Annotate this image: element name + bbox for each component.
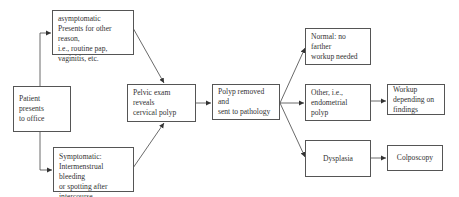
node-workup: Workup depending on findings	[387, 84, 445, 115]
node-label: Colposcopy	[397, 153, 433, 163]
node-dysplasia: Dysplasia	[305, 140, 371, 177]
node-symptomatic: Symptomatic: Intermenstrual bleeding or …	[53, 147, 134, 192]
edge-patient-asymptomatic	[40, 33, 51, 86]
node-label: Polyp removed and sent to pathology	[218, 87, 274, 117]
node-label: Normal: no farther workup needed	[311, 32, 365, 62]
node-label: Other, i.e., endometrial polyp	[311, 88, 365, 118]
edge-asymptomatic-pelvic	[133, 28, 164, 83]
node-patient-presents: Patient presents to office	[13, 86, 71, 132]
edge-patient-symptomatic	[40, 132, 52, 170]
edge-symptomatic-pelvic	[133, 123, 164, 168]
node-normal: Normal: no farther workup needed	[305, 28, 371, 65]
node-asymptomatic: asymptomatic Presents for other reason, …	[52, 10, 134, 55]
node-label: Pelvic exam reveals cervical polyp	[133, 88, 190, 118]
node-label: asymptomatic Presents for other reason, …	[58, 14, 128, 64]
node-label: Workup depending on findings	[393, 85, 434, 115]
node-pelvic-exam: Pelvic exam reveals cervical polyp	[127, 84, 196, 122]
node-label: Symptomatic: Intermenstrual bleeding or …	[59, 152, 128, 197]
node-other: Other, i.e., endometrial polyp	[305, 84, 371, 121]
node-label: Dysplasia	[323, 154, 353, 164]
edge-polyp-normal	[280, 48, 305, 103]
edge-polyp-dysplasia	[280, 103, 305, 157]
node-label: Patient presents to office	[19, 94, 65, 124]
node-polyp-removed: Polyp removed and sent to pathology	[212, 84, 280, 120]
node-colposcopy: Colposcopy	[387, 145, 443, 171]
